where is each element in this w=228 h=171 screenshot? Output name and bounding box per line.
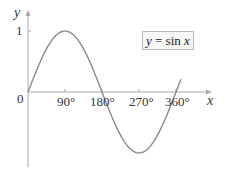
legend-eq: = sin xyxy=(152,33,184,48)
x-tick-label-360: 360° xyxy=(165,94,190,109)
x-tick-label-180: 180° xyxy=(90,94,115,109)
y-axis-arrow-icon xyxy=(26,10,31,16)
sine-chart: y 1 0 90° 180° 270° 360° x xyxy=(0,0,228,171)
x-axis-label: x xyxy=(206,93,214,108)
x-tick-label-270: 270° xyxy=(129,94,154,109)
y-axis-label: y xyxy=(12,5,21,20)
origin-label: 0 xyxy=(17,91,24,106)
legend-rhs: x xyxy=(184,33,190,48)
x-tick-label-90: 90° xyxy=(57,94,75,109)
y-tick-label-1: 1 xyxy=(16,23,23,38)
legend: y = sin x xyxy=(142,31,194,50)
